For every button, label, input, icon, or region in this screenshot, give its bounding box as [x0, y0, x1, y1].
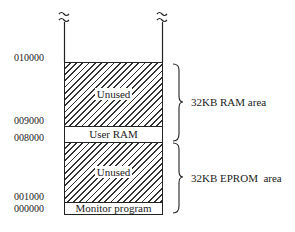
- address-label: 009000: [14, 116, 44, 126]
- area-label: 32KB EPROM area: [191, 172, 282, 184]
- brace-eprom-icon: [173, 143, 183, 213]
- memory-region: User RAM: [64, 126, 163, 142]
- address-label: 010000: [14, 53, 44, 63]
- memory-region: Unused: [64, 62, 163, 126]
- address-label: 001000: [14, 192, 44, 202]
- break-icon-left: [59, 13, 69, 22]
- region-label: Monitor program: [73, 202, 153, 214]
- brace-ram-icon: [173, 64, 183, 141]
- break-icon-right: [157, 13, 167, 22]
- address-label: 008000: [14, 133, 44, 143]
- region-label: Unused: [95, 88, 133, 100]
- area-label: 32KB RAM area: [191, 96, 266, 108]
- address-label: 000000: [14, 204, 44, 214]
- region-label: User RAM: [87, 128, 140, 140]
- region-label: Unused: [95, 166, 133, 178]
- memory-region: Monitor program: [64, 202, 163, 215]
- memory-region: Unused: [64, 142, 163, 202]
